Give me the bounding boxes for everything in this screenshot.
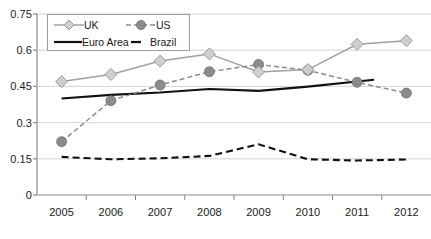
line-chart: 0.75 0.6 0.45 0.3 0.15 0: [0, 0, 431, 239]
legend-item-euro-area[interactable]: Euro Area: [52, 34, 129, 50]
x-tick-label: 2011: [345, 207, 369, 218]
legend-label-euro-area: Euro Area: [82, 37, 129, 48]
x-tick-label: 2009: [246, 207, 271, 218]
legend-key-brazil-dash-icon: [128, 35, 150, 49]
legend-key-uk-diamond-icon: [54, 18, 84, 32]
x-tick-label: 2006: [98, 207, 123, 218]
legend: UK US Euro Area: [47, 14, 190, 51]
x-tick-label: 2010: [295, 207, 320, 218]
legend-label-brazil: Brazil: [150, 37, 176, 48]
legend-label-us: US: [156, 20, 171, 31]
x-tick-label: 2008: [197, 207, 222, 218]
legend-key-euro-area-line-icon: [52, 35, 82, 49]
legend-item-uk[interactable]: UK: [54, 17, 99, 33]
legend-item-brazil[interactable]: Brazil: [128, 34, 176, 50]
legend-key-us-circle-icon: [126, 18, 156, 32]
legend-label-uk: UK: [84, 20, 99, 31]
x-tick-label: 2012: [394, 207, 419, 218]
legend-item-us[interactable]: US: [126, 17, 171, 33]
x-tick-label: 2007: [148, 207, 173, 218]
x-tick-label: 2005: [49, 207, 74, 218]
